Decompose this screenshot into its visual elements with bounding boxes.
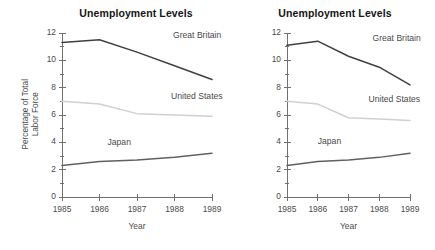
y-tick-label: 6 [251,109,281,119]
figure-unemployment-levels: Unemployment Levels Percentage of Total … [0,0,435,250]
x-tick-label: 1985 [46,204,78,214]
y-tick-label: 8 [26,82,56,92]
x-tick-label: 1987 [333,204,365,214]
y-tick-label: 0 [26,191,56,201]
x-tick-label: 1989 [196,204,228,214]
x-tick-label: 1988 [159,204,191,214]
y-tick-label: 10 [26,54,56,64]
series-annotation-united-states: United States [171,91,223,101]
y-tick-label: 4 [251,136,281,146]
y-tick-label: 8 [251,82,281,92]
series-annotation-great-britain: Great Britain [373,33,421,43]
y-tick-label: 2 [26,164,56,174]
y-tick-label: 12 [251,27,281,37]
x-tick-label: 1989 [394,204,426,214]
y-tick-label: 10 [251,54,281,64]
y-tick-label: 2 [251,164,281,174]
y-tick-label: 6 [26,109,56,119]
x-tick-label: 1988 [363,204,395,214]
series-annotation-japan: Japan [108,137,131,147]
series-annotation-japan: Japan [318,136,341,146]
x-tick-label: 1987 [121,204,153,214]
chart-panel-right: Unemployment Levels Year 024681012198519… [225,0,435,250]
y-tick-label: 12 [26,27,56,37]
chart-panel-left: Unemployment Levels Percentage of Total … [0,0,225,250]
x-tick-label: 1986 [302,204,334,214]
y-tick-label: 4 [26,136,56,146]
series-annotation-great-britain: Great Britain [173,30,221,40]
y-tick-label: 0 [251,191,281,201]
series-annotation-united-states: United States [369,94,421,104]
x-tick-label: 1985 [271,204,303,214]
x-tick-label: 1986 [84,204,116,214]
